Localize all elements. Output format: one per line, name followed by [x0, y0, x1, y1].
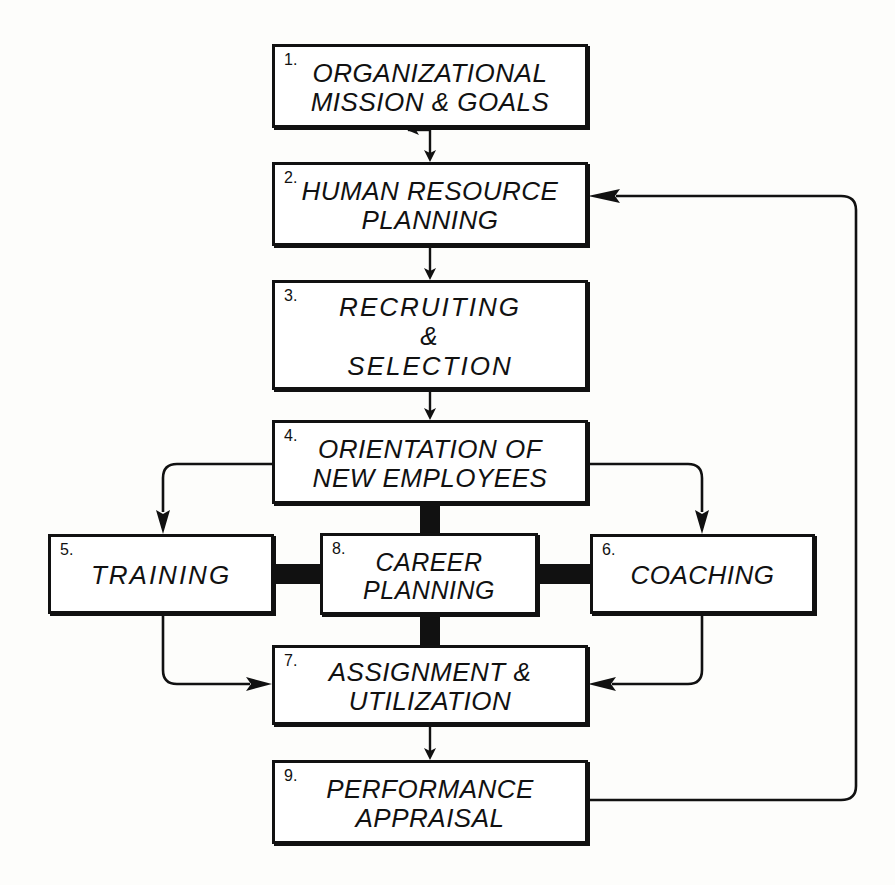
node-label-3: RECRUITING & SELECTION: [333, 293, 527, 380]
connector-3-to-4: [424, 392, 436, 420]
connector-1-to-2: [408, 130, 436, 162]
connector-6-to-7: [588, 614, 702, 691]
node-label-2: HUMAN RESOURCE PLANNING: [296, 177, 565, 235]
node-training[interactable]: 5. TRAINING: [48, 534, 274, 614]
connector-2-to-3: [424, 248, 436, 280]
node-organizational-mission-goals[interactable]: 1. ORGANIZATIONAL MISSION & GOALS: [272, 44, 588, 128]
node-orientation-new-employees[interactable]: 4. ORIENTATION OF NEW EMPLOYEES: [272, 420, 588, 504]
node-recruiting-selection[interactable]: 3. RECRUITING & SELECTION: [272, 280, 588, 390]
connector-5-to-8-thick: [270, 564, 324, 584]
connector-9-to-2-feedback: [588, 189, 856, 800]
connector-5-to-7: [163, 614, 272, 691]
node-human-resource-planning[interactable]: 2. HUMAN RESOURCE PLANNING: [272, 162, 588, 246]
node-number-7: 7.: [284, 652, 297, 670]
node-label-6: COACHING: [624, 561, 780, 590]
node-coaching[interactable]: 6. COACHING: [590, 534, 815, 614]
node-performance-appraisal[interactable]: 9. PERFORMANCE APPRAISAL: [272, 760, 588, 844]
node-number-4: 4.: [284, 427, 297, 445]
connector-4-to-5: [156, 464, 272, 534]
node-label-5: TRAINING: [85, 561, 237, 590]
node-number-5: 5.: [60, 541, 73, 559]
flowchart-canvas: 1. ORGANIZATIONAL MISSION & GOALS 2. HUM…: [0, 0, 895, 885]
node-label-4: ORIENTATION OF NEW EMPLOYEES: [307, 435, 554, 493]
node-label-9: PERFORMANCE APPRAISAL: [320, 775, 540, 833]
connector-8-to-6-thick: [534, 564, 594, 584]
node-label-7: ASSIGNMENT & UTILIZATION: [323, 658, 537, 716]
node-number-6: 6.: [602, 541, 615, 559]
node-career-planning[interactable]: 8. CAREER PLANNING: [320, 533, 538, 615]
connector-7-to-9: [424, 727, 436, 760]
node-number-3: 3.: [284, 287, 297, 305]
node-number-8: 8.: [332, 540, 345, 558]
connector-4-to-8-thick: [420, 502, 440, 536]
node-label-8: CAREER PLANNING: [357, 548, 501, 604]
connector-4-to-6: [588, 464, 709, 534]
connector-8-to-7-thick: [420, 611, 440, 649]
node-number-1: 1.: [284, 51, 297, 69]
node-assignment-utilization[interactable]: 7. ASSIGNMENT & UTILIZATION: [272, 645, 588, 725]
node-label-1: ORGANIZATIONAL MISSION & GOALS: [305, 59, 556, 117]
node-number-9: 9.: [284, 767, 297, 785]
